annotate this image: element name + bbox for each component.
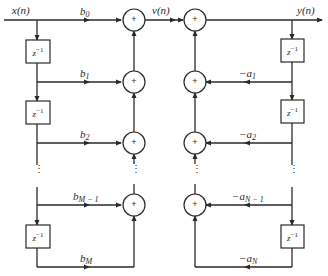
plus-icon: + — [124, 15, 144, 24]
output-signal-label: y(n) — [297, 5, 315, 16]
delay-label-right-3: z−1 — [281, 232, 304, 243]
coef-b2: b2 — [80, 129, 90, 142]
ellipsis-left-adders: ⋮ — [131, 166, 137, 171]
coef-aN: −aN — [239, 253, 257, 266]
delay-label-right-1: z−1 — [281, 46, 304, 57]
plus-icon: + — [185, 77, 205, 86]
coef-bM: bM — [80, 253, 92, 266]
coef-a2: −a2 — [239, 129, 256, 142]
coef-b1: b1 — [80, 68, 90, 81]
coef-b0: b0 — [80, 6, 90, 19]
plus-icon: + — [185, 15, 205, 24]
ellipsis-left-chain: ⋮ — [34, 166, 40, 171]
coef-bM-1: bM − 1 — [73, 191, 99, 204]
plus-icon: + — [185, 138, 205, 147]
plus-icon: + — [124, 200, 144, 209]
delay-label-left-3: z−1 — [26, 232, 50, 243]
plus-icon: + — [124, 138, 144, 147]
ellipsis-right-chain: ⋮ — [289, 166, 295, 171]
delay-label-left-2: z−1 — [26, 108, 50, 119]
coef-a1: −a1 — [239, 68, 256, 81]
input-signal-label: x(n) — [12, 5, 30, 16]
delay-label-right-2: z−1 — [281, 107, 304, 118]
ellipsis-right-adders: ⋮ — [192, 166, 198, 171]
plus-icon: + — [185, 200, 205, 209]
delay-label-left-1: z−1 — [26, 47, 50, 58]
plus-icon: + — [124, 77, 144, 86]
coef-aN-1: −aN − 1 — [232, 191, 264, 204]
intermediate-signal-label: v(n) — [152, 5, 170, 16]
